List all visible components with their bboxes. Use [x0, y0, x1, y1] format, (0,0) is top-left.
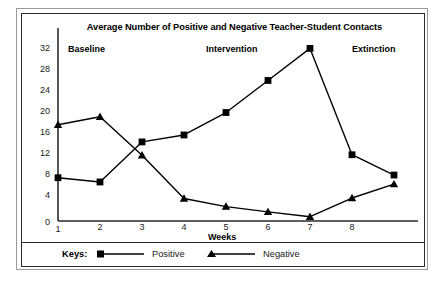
legend-label-negative: Negative: [263, 249, 300, 259]
figure-outer-frame: Average Number of Positive and Negative …: [16, 8, 428, 270]
data-point-marker: [390, 180, 398, 187]
data-point-marker: [349, 151, 356, 158]
series-negative: [54, 113, 398, 220]
legend-title: Keys:: [62, 249, 87, 259]
data-point-marker: [307, 45, 314, 52]
series-positive: [55, 45, 398, 185]
data-point-marker: [265, 77, 272, 84]
figure-inner-frame: Average Number of Positive and Negative …: [21, 13, 425, 267]
square-marker: [96, 247, 148, 261]
chart-plot-region: Average Number of Positive and Negative …: [22, 14, 424, 242]
data-point-marker: [96, 113, 104, 120]
chart-legend: Keys: Positive Negative: [22, 243, 424, 266]
data-point-marker: [223, 109, 230, 116]
data-point-marker: [391, 172, 398, 179]
triangle-marker: [207, 247, 259, 261]
data-point-marker: [139, 139, 146, 146]
data-point-marker: [55, 174, 62, 181]
chart-canvas: [22, 14, 424, 242]
legend-label-positive: Positive: [152, 249, 185, 259]
data-point-marker: [181, 132, 188, 139]
data-point-marker: [97, 179, 104, 186]
